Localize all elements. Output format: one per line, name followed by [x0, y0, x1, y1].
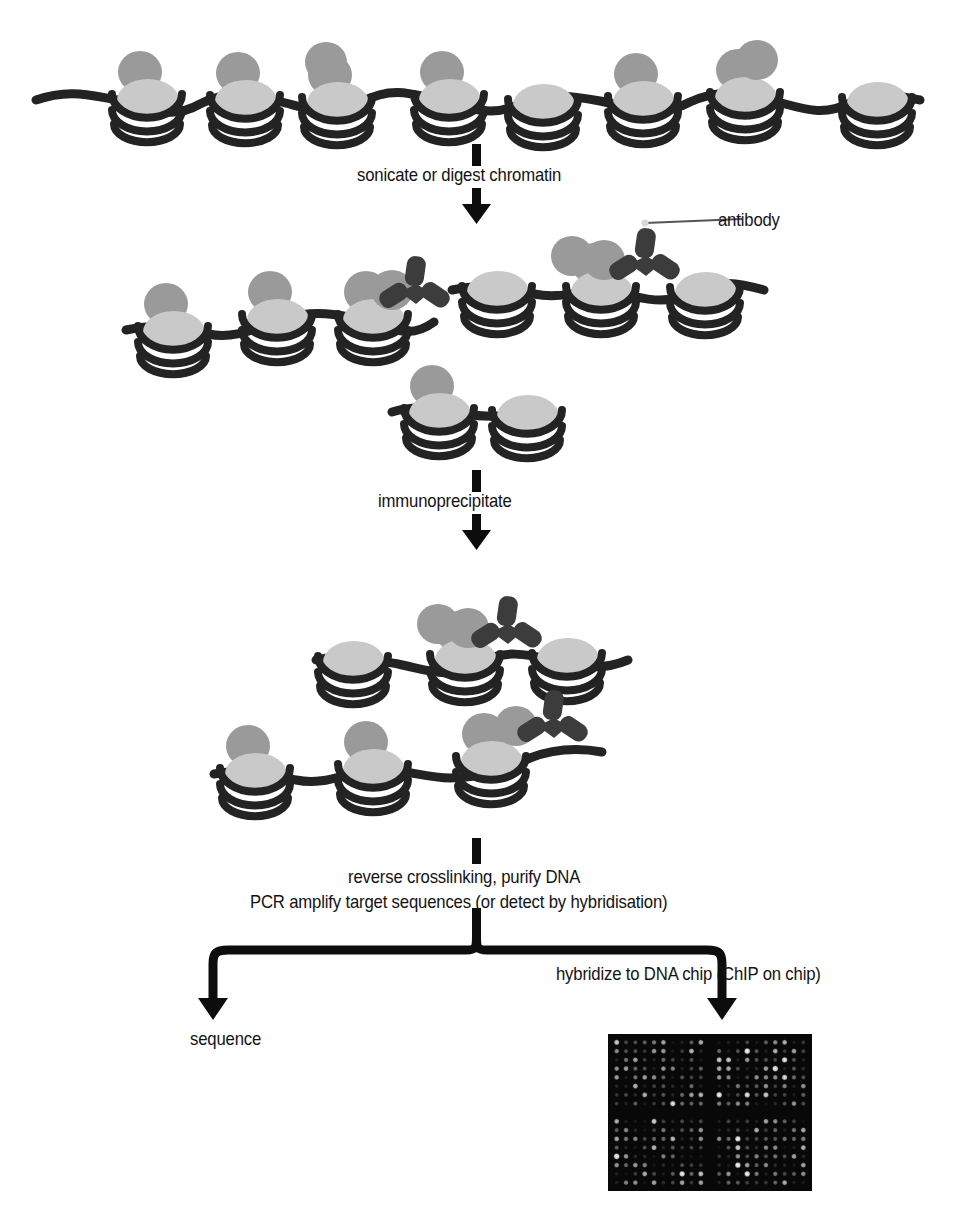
ip-fragment-upper: [316, 595, 628, 704]
label-antibody: antibody: [718, 209, 780, 231]
label-immunoprecipitate-step: immunoprecipitate: [378, 490, 512, 512]
chromatin-fragment-bottom: [392, 365, 562, 458]
arrow-head-chip: [707, 998, 737, 1020]
dna-microarray-image: [608, 1034, 812, 1191]
chromatin-fragment-right: [452, 227, 764, 335]
ip-fragment-lower: [214, 689, 602, 816]
chromatin-fragment-left: [126, 255, 453, 374]
label-hybridize-chip: hybridize to DNA chip (ChIP on chip): [556, 963, 821, 985]
nucleosome-extra-disc: [305, 42, 347, 82]
label-reverse-crosslinking: reverse crosslinking, purify DNA: [348, 866, 580, 888]
label-pcr-amplify: PCR amplify target sequences (or detect …: [250, 891, 667, 913]
label-sequence: sequence: [190, 1028, 261, 1050]
stage-intact-chromatin: [36, 40, 920, 147]
label-sonicate-step: sonicate or digest chromatin: [357, 164, 561, 186]
arrow-head-sequence: [198, 998, 228, 1020]
stage-fragmented-chromatin: [126, 219, 764, 458]
nucleosome-extra-disc: [736, 40, 778, 80]
stage-immunoprecipitated-chromatin: [214, 595, 628, 816]
chip-workflow-diagram: sonicate or digest chromatin antibody im…: [0, 0, 953, 1230]
